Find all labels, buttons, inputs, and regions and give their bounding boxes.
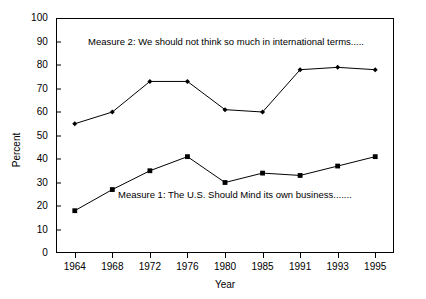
data-point-marker xyxy=(147,168,152,173)
y-axis-tick-label: 30 xyxy=(37,178,48,188)
x-axis-tick-mark xyxy=(112,253,113,258)
y-axis-tick-label: 10 xyxy=(37,225,48,235)
x-axis-tick-label: 1964 xyxy=(64,261,86,272)
data-point-marker xyxy=(335,65,340,70)
y-axis-tick-label: 20 xyxy=(37,201,48,211)
data-point-marker xyxy=(72,121,77,126)
x-axis-tick-label: 1985 xyxy=(251,261,273,272)
data-point-marker xyxy=(223,180,228,185)
data-point-marker xyxy=(110,187,115,192)
y-axis-tick-mark xyxy=(56,135,61,136)
x-axis-tick-mark xyxy=(150,253,151,258)
x-axis-tick-mark xyxy=(225,253,226,258)
x-axis-tick-mark xyxy=(187,253,188,258)
y-axis-tick-label: 70 xyxy=(37,84,48,94)
data-point-marker xyxy=(373,67,378,72)
x-axis-tick-label: 1976 xyxy=(176,261,198,272)
y-axis-tick-mark xyxy=(56,41,61,42)
x-axis-tick-label: 1980 xyxy=(214,261,236,272)
y-axis-title: Percent xyxy=(11,132,22,166)
x-axis-tick-label: 1993 xyxy=(327,261,349,272)
y-axis-tick-label: 0 xyxy=(42,248,48,258)
x-axis-tick-label: 1968 xyxy=(101,261,123,272)
y-axis-tick-mark xyxy=(56,65,61,66)
data-point-marker xyxy=(335,164,340,169)
x-axis-tick-label: 1995 xyxy=(364,261,386,272)
x-axis-tick-mark xyxy=(375,253,376,258)
y-axis-tick-mark xyxy=(56,229,61,230)
y-axis-tick-label: 80 xyxy=(37,60,48,70)
y-axis-tick-label: 90 xyxy=(37,37,48,47)
y-axis-tick-mark xyxy=(56,112,61,113)
x-axis-tick-mark xyxy=(263,253,264,258)
y-axis: 1009080706050403020100 xyxy=(0,18,56,253)
y-axis-tick-label: 100 xyxy=(31,13,48,23)
data-point-marker xyxy=(72,208,77,213)
annotation-measure-2: Measure 2: We should not think so much i… xyxy=(88,36,364,47)
series-layer xyxy=(56,18,394,253)
x-axis-tick-mark xyxy=(75,253,76,258)
y-axis-tick-mark xyxy=(56,88,61,89)
data-point-marker xyxy=(373,154,378,159)
annotation-measure-1: Measure 1: The U.S. Should Mind its own … xyxy=(118,189,352,200)
y-axis-tick-label: 40 xyxy=(37,154,48,164)
series-line xyxy=(75,67,375,123)
x-axis-tick-mark xyxy=(338,253,339,258)
y-axis-tick-label: 50 xyxy=(37,131,48,141)
y-axis-tick-mark xyxy=(56,182,61,183)
y-axis-tick-mark xyxy=(56,159,61,160)
x-axis-tick-mark xyxy=(300,253,301,258)
data-point-marker xyxy=(298,173,303,178)
x-axis-tick-label: 1972 xyxy=(139,261,161,272)
data-point-marker xyxy=(185,154,190,159)
y-axis-tick-mark xyxy=(56,206,61,207)
x-axis-tick-label: 1991 xyxy=(289,261,311,272)
y-axis-tick-label: 60 xyxy=(37,107,48,117)
line-chart: 1009080706050403020100 Percent Year Meas… xyxy=(0,0,426,299)
data-point-marker xyxy=(260,171,265,176)
x-axis-title: Year xyxy=(215,279,235,290)
